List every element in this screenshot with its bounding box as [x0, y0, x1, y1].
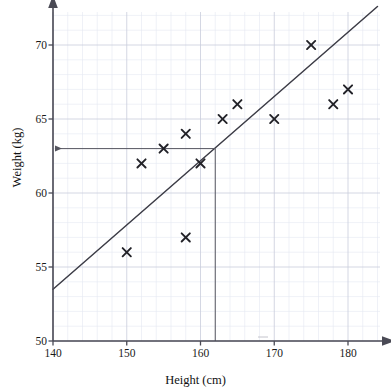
x-tick-label: 180: [339, 347, 356, 359]
plot-canvas: [0, 0, 391, 390]
scatter-plot-figure: 140150160170180 5055606570 Height (cm) W…: [0, 0, 391, 390]
y-tick-label: 70: [20, 39, 47, 51]
x-tick-label: 160: [192, 347, 209, 359]
grid-minor-lines: [53, 12, 380, 341]
grid-major-lines: [53, 12, 380, 341]
x-tick-label: 140: [44, 347, 61, 359]
axis-lines: [53, 8, 382, 341]
x-tick-label: 170: [266, 347, 283, 359]
y-axis-title: Weight (kg): [10, 108, 25, 208]
y-tick-label: 50: [20, 335, 47, 347]
y-tick-label: 55: [20, 261, 47, 273]
x-axis-title: Height (cm): [0, 373, 391, 388]
x-tick-label: 150: [118, 347, 135, 359]
read-off-annotation: [55, 149, 215, 341]
axis-tick-marks: [49, 45, 349, 346]
